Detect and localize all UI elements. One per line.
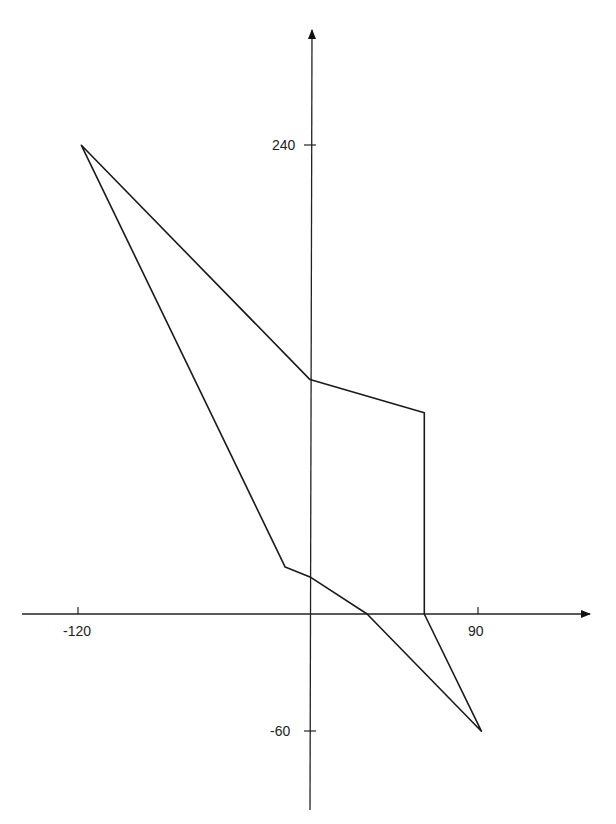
chart: -120 90 240 -60 xyxy=(0,0,616,824)
y-tick-label-max: 240 xyxy=(272,137,296,153)
x-axis: -120 90 xyxy=(22,607,590,639)
y-axis: 240 -60 xyxy=(270,30,316,810)
x-tick-label-max: 90 xyxy=(468,623,484,639)
x-tick-label-min: -120 xyxy=(63,623,91,639)
y-tick-label-min: -60 xyxy=(270,723,290,739)
polygon-series xyxy=(81,145,481,731)
